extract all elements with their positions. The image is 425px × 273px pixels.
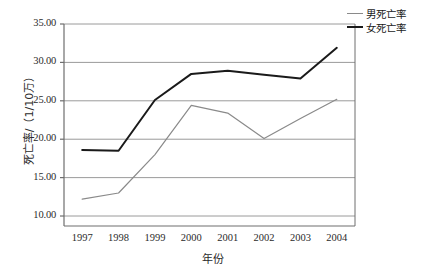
series-line-1 <box>82 48 337 151</box>
x-tick-label: 2003 <box>280 232 320 243</box>
x-tick-label: 2000 <box>171 232 211 243</box>
x-axis-title: 年份 <box>0 250 425 266</box>
x-tick-label: 1999 <box>135 232 175 243</box>
y-tick-label: 10.00 <box>12 209 56 220</box>
legend-item-0: 男死亡率 <box>347 6 425 20</box>
y-axis-title: 死亡率/（1/10万） <box>20 38 36 198</box>
chart-legend: 男死亡率女死亡率 <box>347 6 425 34</box>
y-tick-label: 35.00 <box>12 17 56 28</box>
x-tick-label: 1998 <box>99 232 139 243</box>
legend-label: 男死亡率 <box>366 6 406 21</box>
legend-label: 女死亡率 <box>366 20 406 35</box>
mortality-rate-line-chart: 10.0015.0020.0025.0030.0035.00 199719981… <box>0 0 425 273</box>
x-tick-label: 2001 <box>208 232 248 243</box>
x-tick-label: 1997 <box>62 232 102 243</box>
legend-line-swatch-icon <box>347 13 363 14</box>
legend-line-swatch-icon <box>347 26 363 28</box>
x-tick-label: 2004 <box>317 232 357 243</box>
legend-item-1: 女死亡率 <box>347 20 425 34</box>
x-tick-label: 2002 <box>244 232 284 243</box>
